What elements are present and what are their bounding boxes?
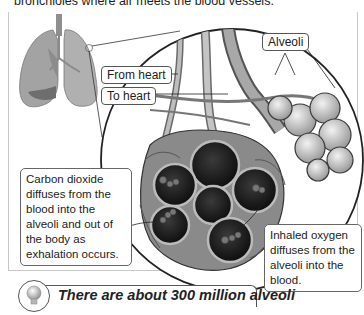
lungs-icon — [20, 14, 98, 107]
label-to-heart: To heart — [101, 87, 156, 105]
fact-text: There are about 300 million alveoli — [58, 287, 295, 303]
lightbulb-icon — [19, 281, 49, 311]
lightbulb-badge — [18, 280, 50, 312]
callout-oxygen: Inhaled oxygen diffuses from the alveoli… — [264, 224, 362, 292]
label-from-heart: From heart — [101, 66, 172, 84]
callout-carbon-dioxide: Carbon dioxide diffuses from the blood i… — [20, 168, 132, 266]
fact-banner: There are about 300 million alveoli — [44, 285, 257, 307]
label-alveoli: Alveoli — [262, 33, 309, 51]
